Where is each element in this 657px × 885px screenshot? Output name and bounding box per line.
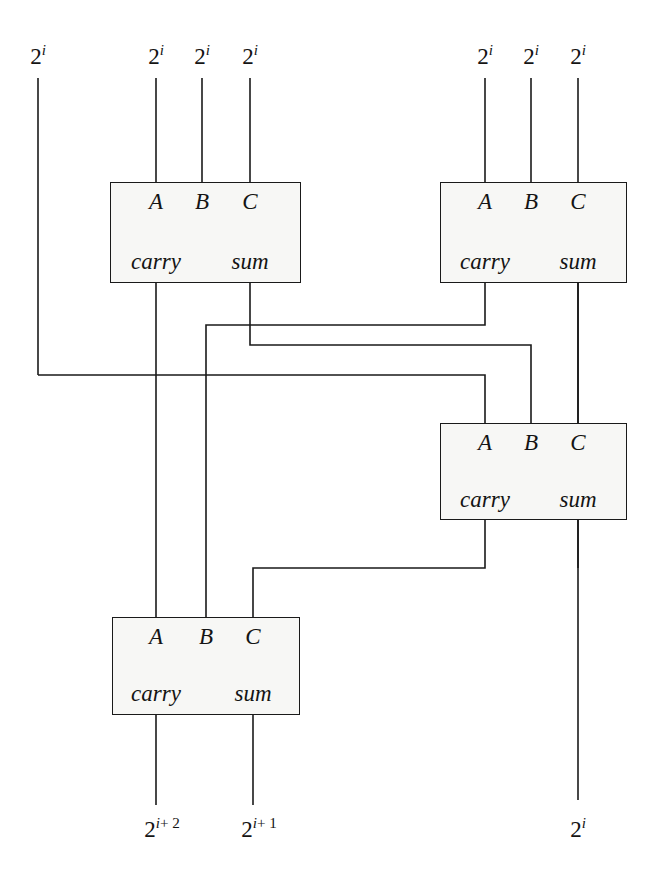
adder-middle-right-input-a-label: A	[478, 431, 492, 454]
adder-middle-right-output-carry-label: carry	[460, 488, 510, 511]
adder-bottom-left-output-carry-label: carry	[131, 682, 181, 705]
adder-top-right-input-b-label: B	[524, 190, 538, 213]
input-label-2: 2i	[194, 45, 210, 68]
wire-midright-carry-to-bottom-c	[253, 520, 485, 617]
adder-top-right-output-sum-label: sum	[559, 250, 596, 273]
adder-top-right-input-c-label: C	[570, 190, 585, 213]
input-label-5: 2i	[523, 45, 539, 68]
wire-topleft-sum-to-midright-b	[250, 283, 531, 423]
adder-bottom-left-input-c-label: C	[245, 625, 260, 648]
adder-top-right-output-carry-label: carry	[460, 250, 510, 273]
adder-middle-right-input-b-label: B	[524, 431, 538, 454]
output-label-sum: 2i	[570, 818, 586, 841]
input-label-1: 2i	[148, 45, 164, 68]
adder-top-right-input-a-label: A	[478, 190, 492, 213]
adder-bottom-left-input-b-label: B	[199, 625, 213, 648]
adder-top-left-output-sum-label: sum	[231, 250, 268, 273]
input-label-6: 2i	[570, 45, 586, 68]
input-label-3: 2i	[242, 45, 258, 68]
adder-bottom-left-output-sum-label: sum	[234, 682, 271, 705]
adder-top-left-input-c-label: C	[242, 190, 257, 213]
circuit-diagram: A B C carry sum A B C carry sum A B C ca…	[0, 0, 657, 885]
adder-top-left-input-a-label: A	[149, 190, 163, 213]
input-label-4: 2i	[477, 45, 493, 68]
input-label-0: 2i	[30, 45, 46, 68]
adder-top-left-input-b-label: B	[195, 190, 209, 213]
adder-top-left-output-carry-label: carry	[131, 250, 181, 273]
wire-input-0-to-midright-a	[38, 375, 485, 423]
adder-middle-right-output-sum-label: sum	[559, 488, 596, 511]
adder-bottom-left-input-a-label: A	[149, 625, 163, 648]
output-label-carry-2: 2i+ 2	[144, 818, 180, 841]
adder-middle-right-input-c-label: C	[570, 431, 585, 454]
output-label-carry-1: 2i+ 1	[241, 818, 277, 841]
